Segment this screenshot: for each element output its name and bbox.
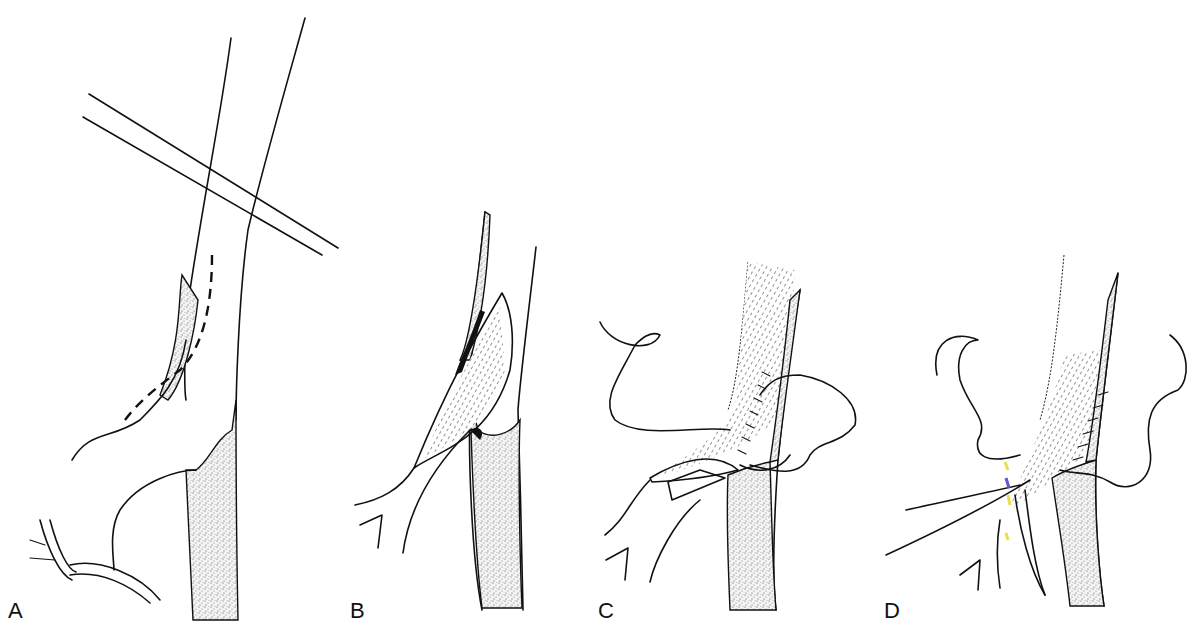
panel-label-b: B bbox=[350, 600, 365, 622]
panel-a-drawing bbox=[30, 18, 338, 620]
panel-label-d: D bbox=[884, 600, 900, 622]
surgical-illustration bbox=[0, 0, 1202, 627]
panel-b-drawing bbox=[355, 212, 536, 610]
panel-label-a: A bbox=[8, 600, 23, 622]
panel-label-c: C bbox=[598, 600, 614, 622]
panel-d-drawing bbox=[886, 255, 1186, 606]
panel-c-drawing bbox=[600, 262, 856, 610]
